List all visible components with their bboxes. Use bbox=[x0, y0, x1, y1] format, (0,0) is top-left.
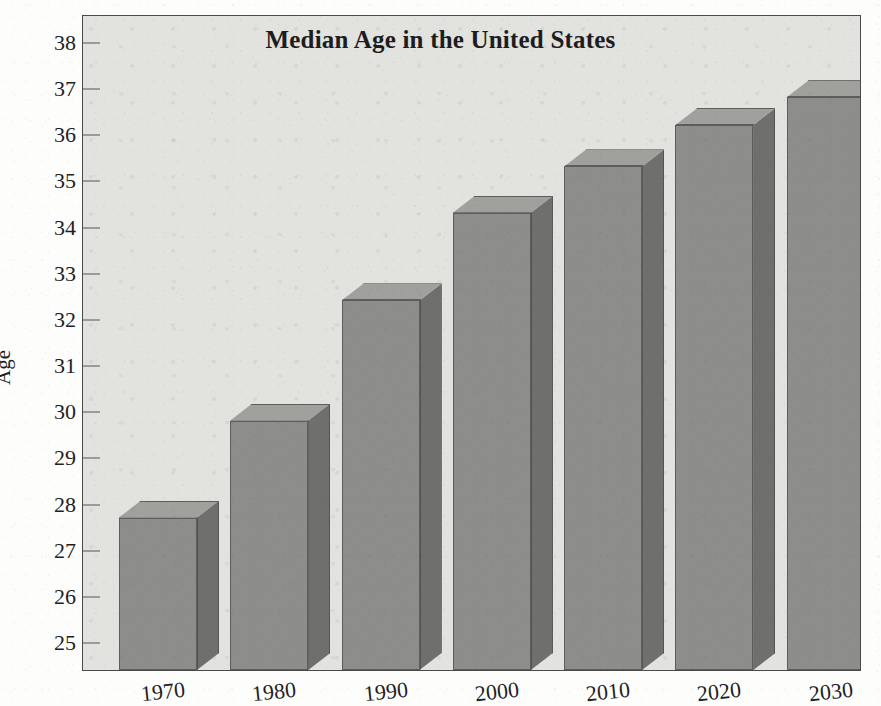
x-axis-tick-label: 2030 bbox=[807, 677, 853, 706]
x-axis-tick-label: 2020 bbox=[696, 677, 742, 706]
chart-figure: Median Age in the United States 38373635… bbox=[0, 0, 881, 706]
x-axis-tick-label: 1970 bbox=[140, 677, 186, 706]
x-axis-tick-labels: 1970198019902000201020202030 bbox=[0, 0, 881, 706]
x-axis-tick-label: 1990 bbox=[362, 677, 408, 706]
x-axis-tick-label: 2010 bbox=[585, 677, 631, 706]
x-axis-tick-label: 1980 bbox=[251, 677, 297, 706]
x-axis-tick-label: 2000 bbox=[474, 677, 520, 706]
